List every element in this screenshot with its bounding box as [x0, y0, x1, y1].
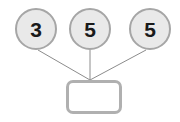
part-circle-2[interactable]: 5 [69, 8, 111, 50]
part-circle-3[interactable]: 5 [129, 8, 171, 50]
connector-line-part-1-to-whole [38, 50, 90, 80]
connector-line-part-3-to-whole [90, 50, 146, 80]
part-circle-3-value: 5 [144, 19, 156, 40]
part-circle-2-value: 5 [84, 19, 96, 40]
part-circle-1[interactable]: 3 [15, 8, 57, 50]
part-circle-1-value: 3 [30, 19, 42, 40]
number-bond-diagram: 3 5 5 [0, 0, 180, 122]
whole-answer-box[interactable] [66, 80, 122, 114]
